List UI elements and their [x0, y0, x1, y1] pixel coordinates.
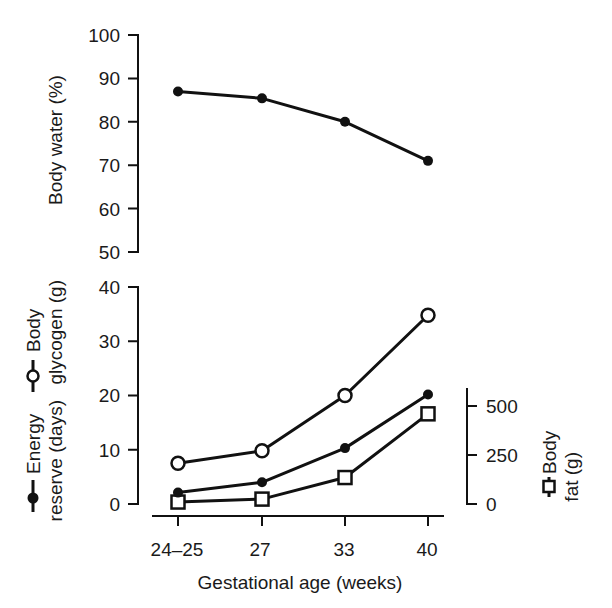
legend-glycogen-label-1: Body: [23, 308, 44, 352]
filled-circle-marker: [423, 156, 433, 166]
tick-label: 50: [99, 242, 120, 263]
energy-reserve-days-series: [173, 389, 433, 497]
tick-label: 80: [99, 112, 120, 133]
open-square-marker: [339, 471, 352, 484]
body-glycogen-g-series: [172, 309, 435, 470]
open-square-marker: [422, 407, 435, 420]
bottom-right-y-axis: [467, 388, 477, 504]
filled-circle-marker: [257, 93, 267, 103]
filled-circle-icon: [28, 493, 39, 504]
gestational-age-chart: 100 90 80 70 60 50 Body water (%) 40 30 …: [0, 0, 612, 608]
tick-label: 0: [486, 494, 497, 515]
open-circle-marker: [339, 389, 352, 402]
tick-label: 100: [88, 25, 120, 46]
tick-label: 60: [99, 199, 120, 220]
series-line: [178, 91, 428, 160]
tick-label: 500: [486, 396, 518, 417]
tick-label: 27: [249, 539, 270, 560]
filled-circle-marker: [257, 477, 267, 487]
x-tick-labels: 24–25 27 33 40: [151, 539, 438, 560]
tick-label: 90: [99, 68, 120, 89]
filled-circle-marker: [173, 488, 183, 498]
bottom-left-y-axis: [128, 287, 138, 504]
open-square-icon: [544, 481, 555, 492]
open-circle-marker: [172, 457, 185, 470]
tick-label: 10: [99, 440, 120, 461]
top-y-tick-labels: 100 90 80 70 60 50: [88, 25, 120, 263]
open-circle-icon: [28, 371, 39, 382]
legend-glycogen: Body glycogen (g): [23, 280, 66, 392]
filled-circle-marker: [340, 117, 350, 127]
top-y-axis: [128, 35, 138, 252]
tick-label: 24–25: [151, 539, 204, 560]
legend-fat-label-1: Body: [539, 430, 560, 474]
tick-label: 30: [99, 331, 120, 352]
legend-energy-label-2: reserve (days): [45, 400, 66, 521]
open-circle-marker: [256, 444, 269, 457]
filled-circle-marker: [173, 86, 183, 96]
tick-label: 0: [109, 494, 120, 515]
legend-energy-reserve: Energy reserve (days): [23, 400, 66, 521]
legend-fat-label-2: fat (g): [561, 452, 582, 502]
top-y-axis-title: Body water (%): [45, 75, 66, 205]
legend-energy-label-1: Energy: [23, 413, 44, 474]
top-panel: 100 90 80 70 60 50 Body water (%): [45, 25, 433, 263]
open-circle-marker: [422, 309, 435, 322]
legend-body-fat: Body fat (g): [539, 430, 582, 501]
bottom-right-y-tick-labels: 500 250 0: [486, 396, 518, 515]
bottom-panel: 40 30 20 10 0 500 250 0 24–25 27 33 40 G…: [23, 277, 582, 593]
filled-circle-marker: [423, 389, 433, 399]
tick-label: 70: [99, 155, 120, 176]
tick-label: 33: [333, 539, 354, 560]
body-water-series: [173, 86, 433, 165]
body-water-series: [173, 86, 433, 165]
tick-label: 250: [486, 445, 518, 466]
tick-label: 40: [416, 539, 437, 560]
filled-circle-marker: [340, 443, 350, 453]
tick-label: 40: [99, 277, 120, 298]
tick-label: 20: [99, 385, 120, 406]
bottom-left-y-tick-labels: 40 30 20 10 0: [99, 277, 120, 515]
x-axis: [152, 516, 444, 526]
legend-glycogen-label-2: glycogen (g): [45, 280, 66, 385]
x-axis-title: Gestational age (weeks): [198, 572, 403, 593]
open-square-marker: [256, 493, 269, 506]
bottom-series-group: [172, 309, 435, 509]
